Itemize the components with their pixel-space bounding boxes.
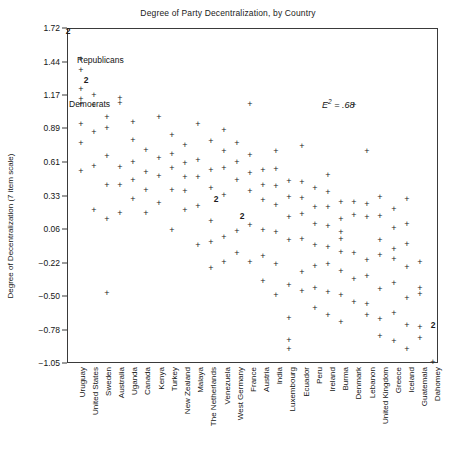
data-point: + xyxy=(351,298,356,307)
y-tick-label: 0.06 xyxy=(18,224,67,234)
data-point: + xyxy=(104,113,109,122)
figure-container: Degree of Party Decentralization, by Cou… xyxy=(0,0,456,452)
data-point: + xyxy=(391,245,396,254)
data-point: + xyxy=(364,311,369,320)
data-point: + xyxy=(78,85,83,94)
data-point: + xyxy=(286,213,291,222)
x-tick-label: France xyxy=(249,367,258,392)
data-point: + xyxy=(364,272,369,281)
data-point: + xyxy=(286,345,291,354)
data-point: + xyxy=(221,191,226,200)
data-point: + xyxy=(91,162,96,171)
data-point: + xyxy=(299,268,304,277)
data-point: + xyxy=(130,195,135,204)
x-tick-label: Greece xyxy=(394,367,403,393)
data-point: + xyxy=(182,206,187,215)
data-point: + xyxy=(325,243,330,252)
x-tick-label: Kenya xyxy=(157,367,166,390)
x-tick-label: Australia xyxy=(117,367,126,398)
data-point: + xyxy=(195,241,200,250)
y-tick-mark xyxy=(62,196,67,197)
data-point: + xyxy=(391,224,396,233)
data-point: + xyxy=(325,188,330,197)
data-point: + xyxy=(221,126,226,135)
data-point: + xyxy=(325,288,330,297)
data-point-double: 2 xyxy=(214,195,219,204)
data-point: + xyxy=(377,332,382,341)
x-tick-label: Malaya xyxy=(196,367,205,393)
data-point: + xyxy=(364,256,369,265)
data-point: + xyxy=(78,120,83,129)
data-point-double: 2 xyxy=(240,212,245,221)
x-tick-label: Ireland xyxy=(328,367,337,391)
data-point: + xyxy=(182,159,187,168)
x-tick-label: Dahomey xyxy=(433,367,442,401)
data-point: + xyxy=(364,300,369,309)
x-tick-label: Lebanon xyxy=(368,367,377,398)
data-point: + xyxy=(221,164,226,173)
data-point: + xyxy=(104,181,109,190)
data-point: + xyxy=(312,220,317,229)
y-tick-mark xyxy=(62,296,67,297)
data-point: + xyxy=(169,226,174,235)
data-point: + xyxy=(273,182,278,191)
data-point: + xyxy=(338,291,343,300)
data-point: + xyxy=(156,199,161,208)
democrats-annotation: Democrats xyxy=(69,99,110,109)
data-point: + xyxy=(417,323,422,332)
data-point: + xyxy=(286,281,291,290)
data-point: + xyxy=(156,172,161,181)
x-tick-label: Uruguay xyxy=(78,367,87,397)
data-point: + xyxy=(104,124,109,133)
data-point: + xyxy=(195,120,200,129)
data-point: + xyxy=(338,235,343,244)
data-point: + xyxy=(377,212,382,221)
data-point: + xyxy=(247,221,252,230)
data-point: + xyxy=(247,187,252,196)
data-point: + xyxy=(312,284,317,293)
data-point: + xyxy=(430,358,435,367)
data-point: + xyxy=(299,210,304,219)
data-point: + xyxy=(208,264,213,273)
x-tick-label: Austria xyxy=(262,367,271,392)
data-point: + xyxy=(312,184,317,193)
data-point: + xyxy=(78,167,83,176)
data-point: + xyxy=(78,139,83,148)
data-point: + xyxy=(247,100,252,109)
data-point: + xyxy=(377,315,382,324)
data-point: + xyxy=(104,289,109,298)
data-point: + xyxy=(325,260,330,269)
data-point: + xyxy=(221,147,226,156)
data-point: + xyxy=(351,275,356,284)
data-point: + xyxy=(377,236,382,245)
data-point: + xyxy=(182,187,187,196)
data-point: + xyxy=(273,260,278,269)
y-tick-label: −0.78 xyxy=(18,325,67,335)
data-point: + xyxy=(234,176,239,185)
data-point: + xyxy=(351,198,356,207)
x-tick-label: Burma xyxy=(341,367,350,391)
y-tick-mark xyxy=(62,363,67,364)
y-tick-label: 0.33 xyxy=(18,191,67,201)
data-point: + xyxy=(312,262,317,271)
data-point: + xyxy=(247,258,252,267)
x-tick-label: India xyxy=(275,367,284,384)
data-point: + xyxy=(130,118,135,127)
data-point-double: 2 xyxy=(431,321,436,330)
y-tick-label: 0.89 xyxy=(18,123,67,133)
data-point: + xyxy=(182,141,187,150)
data-point: + xyxy=(377,251,382,260)
data-point: + xyxy=(404,220,409,229)
data-point: + xyxy=(377,193,382,202)
data-point: + xyxy=(351,211,356,220)
data-point: + xyxy=(364,200,369,209)
data-point: + xyxy=(156,154,161,163)
data-point: + xyxy=(404,195,409,204)
republicans-annotation: Republicans xyxy=(77,55,124,65)
x-tick-label: Denmark xyxy=(354,367,363,399)
data-point: + xyxy=(338,318,343,327)
data-point: + xyxy=(260,166,265,175)
data-point: + xyxy=(234,249,239,258)
x-tick-label: Guatemala xyxy=(420,367,429,406)
data-point: + xyxy=(338,267,343,276)
